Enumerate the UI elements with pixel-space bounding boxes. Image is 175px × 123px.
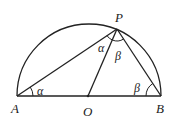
angle-arc-B xyxy=(146,84,153,97)
geometry-diagram: A B O P α α β β xyxy=(0,0,175,123)
angle-label-B: β xyxy=(133,81,140,95)
label-O: O xyxy=(83,104,93,119)
angle-label-P-right: β xyxy=(114,49,121,63)
diagram-canvas: A B O P α α β β xyxy=(0,0,175,123)
angle-arc-A xyxy=(30,87,33,96)
angle-label-A: α xyxy=(37,84,44,98)
center-dot-O xyxy=(87,95,90,98)
label-A: A xyxy=(10,101,19,116)
angle-arc-P-right xyxy=(112,39,123,41)
label-B: B xyxy=(156,101,164,116)
angle-arc-P-left xyxy=(107,36,112,40)
label-P: P xyxy=(114,10,123,25)
angle-label-P-left: α xyxy=(98,41,105,55)
